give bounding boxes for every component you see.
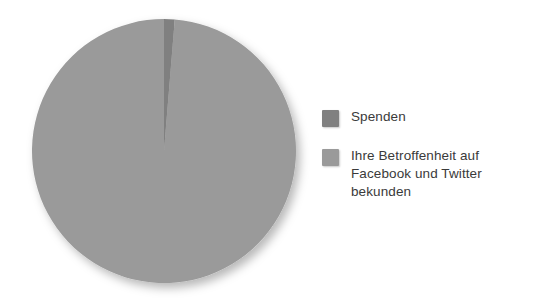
legend-label-spenden: Spenden: [351, 108, 406, 126]
pie-plot-area: [22, 9, 312, 299]
pie-chart-figure: Spenden Ihre Betroffenheit auf Facebook …: [0, 0, 534, 302]
pie-slices-group: [32, 19, 296, 283]
pie-svg: [22, 9, 312, 299]
legend-swatch-spenden: [322, 110, 339, 127]
legend-item-betroffenheit[interactable]: Ihre Betroffenheit auf Facebook und Twit…: [322, 147, 522, 201]
legend-swatch-betroffenheit: [322, 149, 339, 166]
legend-label-betroffenheit: Ihre Betroffenheit auf Facebook und Twit…: [351, 147, 482, 201]
legend-item-spenden[interactable]: Spenden: [322, 108, 522, 127]
chart-legend: Spenden Ihre Betroffenheit auf Facebook …: [322, 108, 522, 221]
